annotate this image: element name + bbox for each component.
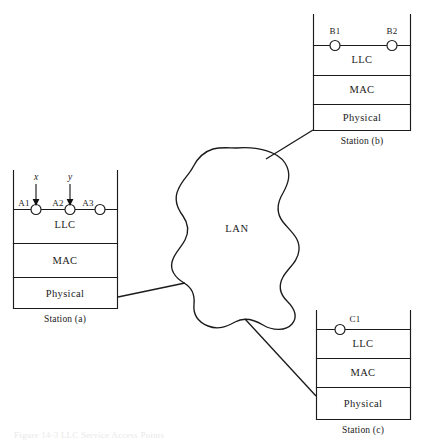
figure-caption: Figure 14-3 LLC Service Access Points bbox=[14, 430, 164, 440]
station-b-sap-label-b2: B2 bbox=[387, 26, 398, 36]
lan-cloud-shape bbox=[172, 148, 299, 330]
station-a-layer-mac: MAC bbox=[53, 255, 78, 266]
station-c-layer-llc: LLC bbox=[353, 338, 374, 349]
station-c-sap-circle-c1 bbox=[335, 325, 345, 335]
station-c-group: LLC MAC Physical C1 Station (c) bbox=[317, 310, 411, 436]
station-a-arrow-x-label: x bbox=[33, 172, 39, 182]
diagram-canvas: LAN LLC MAC Physical bbox=[0, 0, 427, 441]
station-a-sap-label-a3: A3 bbox=[82, 198, 94, 208]
station-b-sap-label-b1: B1 bbox=[330, 26, 341, 36]
link-station-a-to-lan bbox=[118, 283, 185, 297]
station-a-sap-label-a1: A1 bbox=[18, 198, 29, 208]
station-b-layer-mac: MAC bbox=[350, 84, 375, 95]
link-lan-to-station-b bbox=[266, 130, 313, 159]
station-a-layer-physical: Physical bbox=[46, 288, 84, 299]
station-c-layer-mac: MAC bbox=[351, 367, 376, 378]
station-c-layer-physical: Physical bbox=[344, 398, 382, 409]
station-a-layer-llc: LLC bbox=[55, 219, 76, 230]
station-a-arrow-y-label: y bbox=[67, 172, 73, 182]
station-b-layer-llc: LLC bbox=[352, 54, 373, 65]
link-lan-to-station-c bbox=[245, 319, 316, 396]
station-a-sap-circle-a3 bbox=[95, 205, 105, 215]
station-b-sap-circle-b1 bbox=[330, 41, 340, 51]
station-a-group: LLC MAC Physical A1 A2 A3 x y Station (a… bbox=[14, 170, 118, 325]
station-c-caption: Station (c) bbox=[342, 425, 384, 436]
station-a-sap-label-a2: A2 bbox=[52, 198, 63, 208]
station-b-group: LLC MAC Physical B1 B2 Station (b) bbox=[314, 14, 411, 147]
station-c-sap-label-c1: C1 bbox=[350, 314, 361, 324]
station-b-caption: Station (b) bbox=[341, 136, 384, 147]
lan-cloud-group: LAN bbox=[172, 148, 299, 330]
lan-cloud-label: LAN bbox=[225, 223, 248, 234]
lan-llc-sap-diagram: LAN LLC MAC Physical bbox=[0, 0, 427, 441]
station-a-caption: Station (a) bbox=[44, 314, 86, 325]
station-b-sap-circle-b2 bbox=[387, 41, 397, 51]
station-b-layer-physical: Physical bbox=[343, 112, 381, 123]
